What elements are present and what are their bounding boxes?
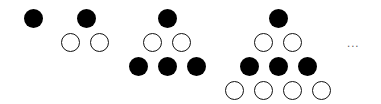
black-circle [129,57,148,76]
dot-pattern-diagram: ... [0,0,381,104]
black-circle [298,57,317,76]
white-circle [283,33,302,52]
white-circle [254,81,273,100]
white-circle [61,33,80,52]
black-circle [77,9,96,28]
white-circle [283,81,302,100]
black-circle [240,57,259,76]
white-circle [90,33,109,52]
white-circle [225,81,244,100]
white-circle [254,33,273,52]
white-circle [143,33,162,52]
black-circle [158,57,177,76]
white-circle [172,33,191,52]
black-circle [269,9,288,28]
black-circle [269,57,288,76]
black-circle [158,9,177,28]
black-circle [24,9,43,28]
continuation-ellipsis: ... [347,38,360,49]
black-circle [187,57,206,76]
white-circle [312,81,331,100]
